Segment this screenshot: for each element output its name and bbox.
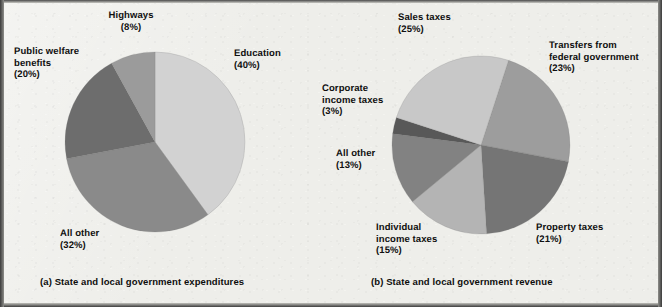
figure-panel: Highways (8%) Education (40%) Public wel… [0,0,662,307]
label-highways: Highways (8%) [86,10,176,33]
label-individual-income-taxes: Individual income taxes (15%) [376,222,476,257]
label-sales-taxes: Sales taxes (25%) [398,12,506,35]
caption-revenue: (b) State and local government revenue [371,276,553,287]
label-property-taxes: Property taxes (21%) [536,222,646,245]
label-education: Education (40%) [234,48,344,71]
label-public-welfare-benefits: Public welfare benefits (20%) [14,46,124,81]
label-all-other-expenditures: All other (32%) [60,228,170,251]
pie-chart-revenue [390,54,572,236]
label-transfers-from-federal-government: Transfers from federal government (23%) [549,40,661,75]
caption-expenditures: (a) State and local government expenditu… [40,276,244,287]
label-all-other-revenue: All other (13%) [336,148,416,171]
label-corporate-income-taxes: Corporate income taxes (3%) [322,83,412,118]
page-edge-top [0,0,662,3]
page-edge-left [0,0,4,307]
page-edge-bottom [0,303,662,307]
